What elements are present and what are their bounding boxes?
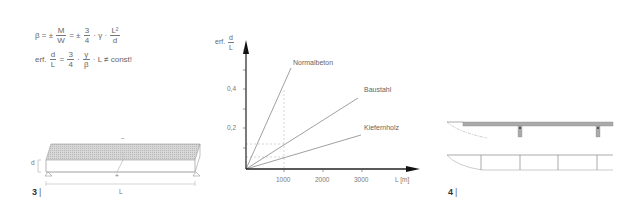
lower-section	[447, 155, 613, 170]
figure-4-label: 4|	[448, 187, 457, 197]
upper-section	[447, 122, 613, 138]
upper-slab	[463, 122, 613, 126]
structure-sections-diagram	[0, 0, 642, 209]
